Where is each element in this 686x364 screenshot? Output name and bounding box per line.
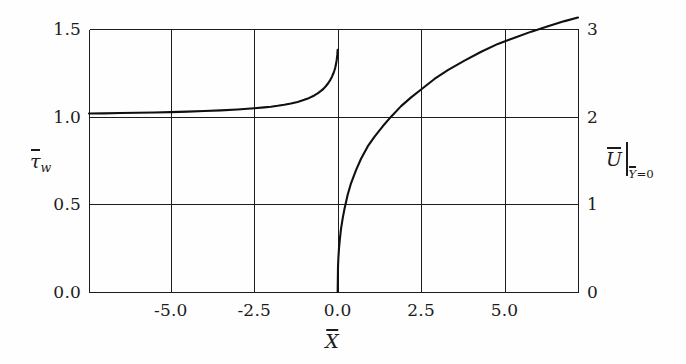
y-right-tick-label: 0 xyxy=(587,282,598,302)
y-right-tick-label: 2 xyxy=(587,107,598,127)
y-left-axis-title: τw xyxy=(30,150,51,175)
data-curve xyxy=(89,50,338,114)
data-curves-group xyxy=(89,18,578,292)
x-tick-label: 0.0 xyxy=(324,300,352,320)
evaluated-at-rule-icon xyxy=(626,142,628,176)
overbar xyxy=(326,329,338,331)
y-left-tick-label: 1.5 xyxy=(53,19,81,39)
y-right-axis-title: UY=0 xyxy=(606,142,654,181)
evaluation-subscript: Y=0 xyxy=(629,167,654,181)
overbar xyxy=(607,147,621,149)
y-right-tick-label: 3 xyxy=(587,19,598,39)
y-left-tick-label: 0.5 xyxy=(53,194,81,214)
x-tick-label: -5.0 xyxy=(154,300,188,320)
x-tick-label: -2.5 xyxy=(237,300,271,320)
overbar xyxy=(629,166,636,168)
y-left-tick-label: 0.0 xyxy=(53,282,81,302)
x-tick-label: 5.0 xyxy=(491,300,519,320)
gridlines-group xyxy=(89,29,578,292)
overbar xyxy=(31,149,40,151)
figure-container: -5.0 -2.5 0.0 2.5 5.0 0.0 0.5 1.0 1.5 0 … xyxy=(0,0,686,364)
data-curve xyxy=(338,18,578,292)
y-right-tick-label: 1 xyxy=(587,194,598,214)
x-tick-label: 2.5 xyxy=(407,300,435,320)
y-left-tick-label: 1.0 xyxy=(53,107,81,127)
x-axis-title: X xyxy=(325,330,339,352)
